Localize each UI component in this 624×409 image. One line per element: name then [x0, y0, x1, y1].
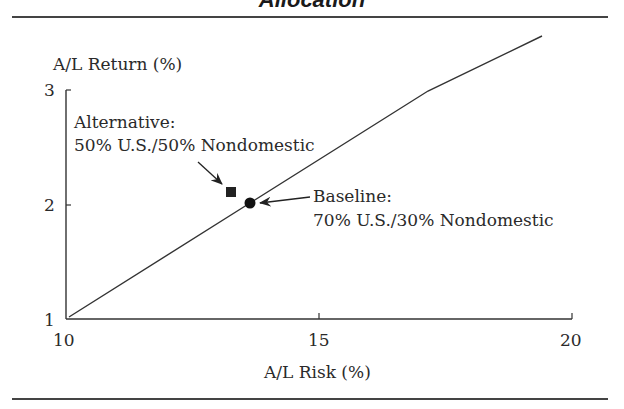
y-tick-3: 3 [44, 80, 55, 100]
frontier-line [69, 36, 542, 317]
y-axis-label: A/L Return (%) [52, 54, 182, 74]
x-axis-label: A/L Risk (%) [263, 362, 371, 382]
x-tick-15: 15 [308, 330, 330, 350]
alternative-arrow [198, 162, 222, 184]
y-tick-2: 2 [44, 195, 55, 215]
x-tick-20: 20 [560, 330, 582, 350]
baseline-arrow [260, 197, 310, 203]
y-tick-1: 1 [44, 310, 55, 330]
baseline-marker [245, 198, 256, 209]
alternative-marker [226, 187, 236, 197]
baseline-label-1: Baseline: [313, 186, 392, 206]
baseline-label-2: 70% U.S./30% Nondomestic [313, 210, 554, 230]
chart-svg: A/L Return (%) 3 2 1 10 15 20 A/L Risk (… [0, 0, 624, 409]
alternative-label-1: Alternative: [73, 112, 175, 132]
x-tick-10: 10 [53, 330, 75, 350]
alternative-label-2: 50% U.S./50% Nondomestic [74, 135, 315, 155]
